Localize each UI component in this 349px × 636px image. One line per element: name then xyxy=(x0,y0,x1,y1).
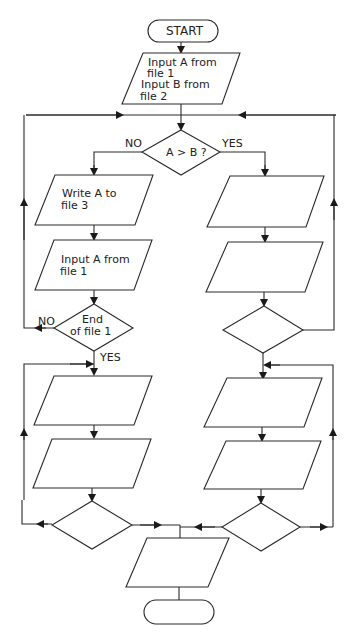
stop-terminator xyxy=(144,600,214,624)
connector-yes xyxy=(220,152,265,175)
eof-no-label: NO xyxy=(38,316,55,328)
left-io-4 xyxy=(33,439,151,488)
right-io-4 xyxy=(204,441,321,489)
ab-yes-label: YES xyxy=(222,138,243,150)
ab-no-label: NO xyxy=(125,138,142,150)
input-ab-line4: file 2 xyxy=(140,91,167,103)
eof-line2: of file 1 xyxy=(70,326,111,338)
left-io-3 xyxy=(34,376,152,425)
loop-left-2-return xyxy=(22,500,52,524)
connector-no xyxy=(94,152,142,173)
start-label: START xyxy=(166,25,203,37)
right-io-1 xyxy=(207,176,324,227)
right-decision-2 xyxy=(222,503,300,551)
decision-ab-label: A > B ? xyxy=(166,147,207,159)
write-a-parallelogram xyxy=(35,175,153,225)
input-a-line2: file 1 xyxy=(60,266,87,278)
final-io xyxy=(126,538,229,587)
right-decision-1 xyxy=(223,306,303,353)
write-a-line2: file 3 xyxy=(61,200,88,212)
right-io-2 xyxy=(206,242,323,292)
eof-yes-label: YES xyxy=(100,352,121,364)
right-io-3 xyxy=(204,378,322,427)
left-decision-2 xyxy=(52,501,132,549)
